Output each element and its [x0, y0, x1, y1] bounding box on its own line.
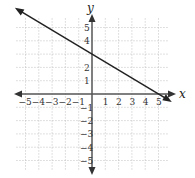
coordinate-plane: x y −5−4−3−2−1123455421−1−2−3−4−5 [0, 0, 195, 178]
svg-text:−3: −3 [80, 129, 94, 139]
svg-text:−5: −5 [19, 97, 33, 107]
data-line [20, 11, 167, 99]
y-axis-arrow-down [89, 167, 96, 175]
svg-text:−2: −2 [80, 116, 93, 126]
svg-text:−4: −4 [32, 97, 46, 107]
x-axis-arrow-right [168, 91, 176, 98]
svg-text:2: 2 [84, 63, 90, 73]
x-axis-label: x [179, 87, 186, 101]
svg-text:2: 2 [116, 97, 122, 107]
y-axis-label: y [86, 1, 94, 15]
svg-text:−3: −3 [45, 97, 59, 107]
line-arrow-left [15, 8, 25, 16]
svg-text:1: 1 [84, 76, 90, 86]
svg-text:3: 3 [129, 97, 135, 107]
svg-text:4: 4 [84, 36, 90, 46]
y-axis-arrow-up [89, 14, 96, 22]
svg-text:−4: −4 [80, 143, 94, 153]
svg-text:−1: −1 [80, 103, 93, 113]
svg-text:−2: −2 [58, 97, 71, 107]
svg-text:5: 5 [84, 23, 90, 33]
svg-text:−5: −5 [80, 156, 94, 166]
svg-text:1: 1 [103, 97, 109, 107]
svg-text:5: 5 [156, 97, 162, 107]
svg-text:4: 4 [143, 97, 149, 107]
